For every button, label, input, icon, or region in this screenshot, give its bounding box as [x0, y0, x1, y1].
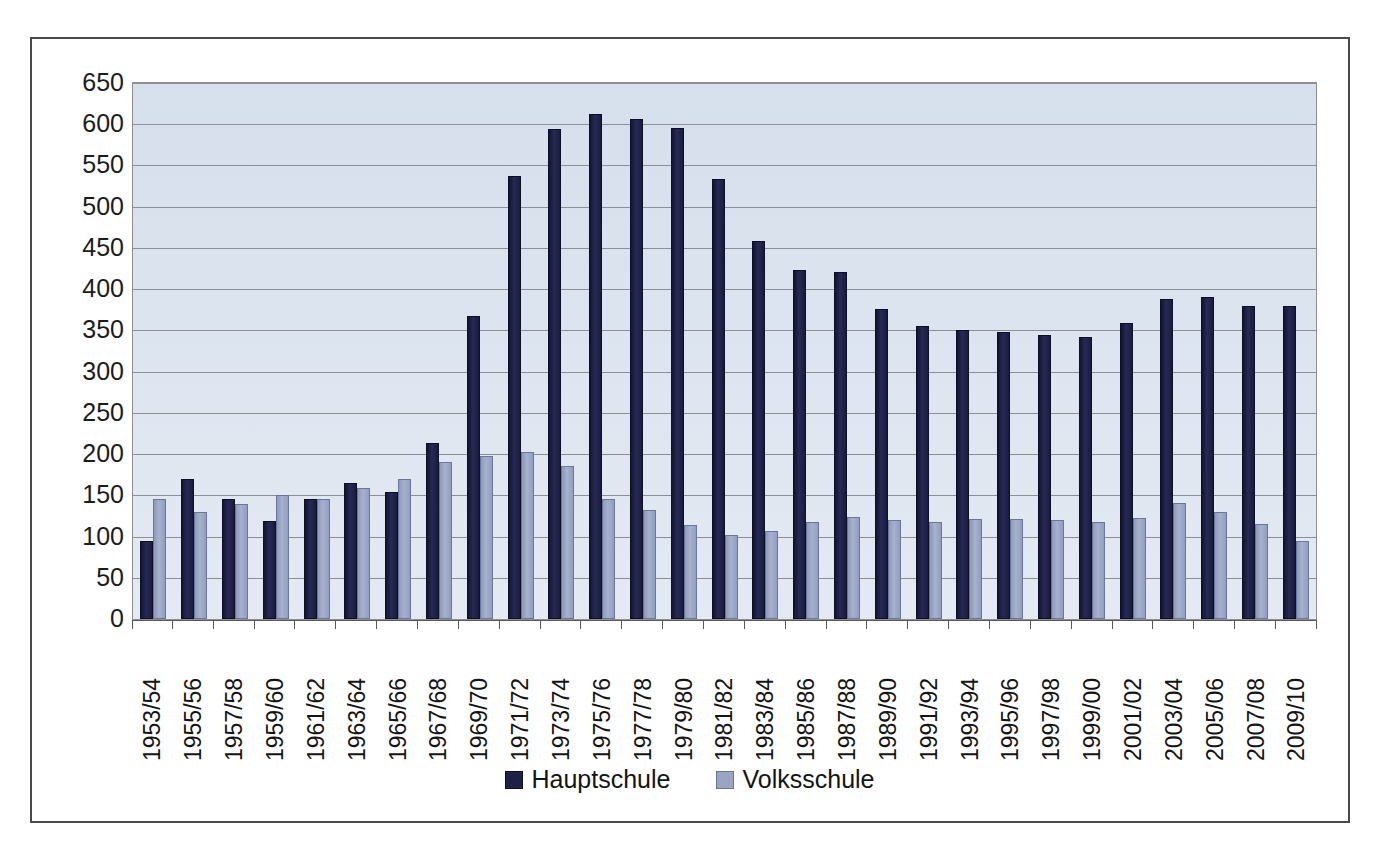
- bar-volksschule-1985-86: [806, 522, 819, 619]
- bar-hauptschule-1963-64: [344, 483, 357, 619]
- x-tick-label-cell: 1973/74: [541, 631, 582, 761]
- bar-hauptschule-1975-76: [589, 114, 602, 619]
- x-tick-label: 1961/62: [304, 678, 327, 761]
- bar-volksschule-1999-00: [1092, 522, 1105, 619]
- y-tick-label: 350: [82, 317, 124, 342]
- bar-hauptschule-2005-06: [1201, 297, 1214, 619]
- bar-hauptschule-1983-84: [752, 241, 765, 619]
- y-tick-label: 550: [82, 152, 124, 177]
- x-tick-label: 1991/92: [917, 678, 940, 761]
- bar-group: [1071, 83, 1112, 619]
- x-tick-label: 1957/58: [223, 678, 246, 761]
- legend-entry-hauptschule[interactable]: Hauptschule: [505, 767, 670, 792]
- bar-group: [827, 83, 868, 619]
- legend-entry-volksschule[interactable]: Volksschule: [716, 767, 874, 792]
- x-tick: [1072, 620, 1113, 629]
- x-tick-label: 1977/78: [631, 678, 654, 761]
- bar-group: [663, 83, 704, 619]
- x-tick-label: 1997/98: [1040, 678, 1063, 761]
- bar-volksschule-2003-04: [1173, 503, 1186, 619]
- x-tick-label-cell: 1967/68: [418, 631, 459, 761]
- bar-volksschule-1969-70: [480, 456, 493, 619]
- bar-volksschule-1963-64: [357, 488, 370, 619]
- bars-layer: [133, 83, 1316, 619]
- bar-hauptschule-1977-78: [630, 119, 643, 619]
- bar-volksschule-2001-02: [1133, 518, 1146, 619]
- bar-group: [174, 83, 215, 619]
- x-tick-label: 1967/68: [427, 678, 450, 761]
- bar-group: [623, 83, 664, 619]
- y-tick-label: 500: [82, 193, 124, 218]
- x-tick: [336, 620, 377, 629]
- x-tick-label: 1971/72: [509, 678, 532, 761]
- bar-hauptschule-1989-90: [875, 309, 888, 619]
- x-tick: [255, 620, 296, 629]
- bar-hauptschule-2007-08: [1242, 306, 1255, 619]
- bar-volksschule-1995-96: [1010, 519, 1023, 619]
- bar-volksschule-1977-78: [643, 510, 656, 619]
- bar-hauptschule-1971-72: [508, 176, 521, 619]
- x-tick: [173, 620, 214, 629]
- x-tick-label: 1959/60: [264, 678, 287, 761]
- y-tick-label: 150: [82, 482, 124, 507]
- x-tick-label: 1963/64: [345, 678, 368, 761]
- legend-swatch-icon: [716, 771, 734, 789]
- bar-hauptschule-1981-82: [712, 179, 725, 619]
- bar-group: [949, 83, 990, 619]
- x-tick-label: 1989/90: [876, 678, 899, 761]
- x-tick: [786, 620, 827, 629]
- x-tick-label-cell: 1995/96: [990, 631, 1031, 761]
- bar-volksschule-1993-94: [969, 519, 982, 619]
- plot-area: [132, 82, 1317, 620]
- bar-group: [908, 83, 949, 619]
- bar-volksschule-1955-56: [194, 512, 207, 619]
- bar-group: [459, 83, 500, 619]
- x-tick: [377, 620, 418, 629]
- bar-hauptschule-1957-58: [222, 499, 235, 619]
- x-tick-label-cell: 2005/06: [1194, 631, 1235, 761]
- x-tick: [990, 620, 1031, 629]
- x-tick: [908, 620, 949, 629]
- x-tick-label-cell: 1969/70: [459, 631, 500, 761]
- x-tick-label: 1981/82: [713, 678, 736, 761]
- bar-group: [745, 83, 786, 619]
- bar-hauptschule-1961-62: [304, 499, 317, 619]
- x-tick-label-cell: 1975/76: [581, 631, 622, 761]
- x-tick: [663, 620, 704, 629]
- x-tick-label-cell: 1999/00: [1072, 631, 1113, 761]
- bar-group: [1112, 83, 1153, 619]
- x-tick: [500, 620, 541, 629]
- bar-group: [1194, 83, 1235, 619]
- bar-volksschule-1965-66: [398, 479, 411, 619]
- bar-volksschule-1983-84: [765, 531, 778, 619]
- x-tick-label-cell: 1989/90: [867, 631, 908, 761]
- bar-volksschule-1979-80: [684, 525, 697, 619]
- x-tick: [295, 620, 336, 629]
- bar-hauptschule-1993-94: [956, 330, 969, 619]
- bar-group: [704, 83, 745, 619]
- bar-hauptschule-1987-88: [834, 272, 847, 619]
- x-tick: [581, 620, 622, 629]
- bar-hauptschule-2001-02: [1120, 323, 1133, 619]
- x-axis-labels: 1953/541955/561957/581959/601961/621963/…: [132, 631, 1317, 761]
- bar-volksschule-1971-72: [521, 452, 534, 619]
- x-tick: [827, 620, 868, 629]
- bar-group: [1235, 83, 1276, 619]
- bar-hauptschule-1969-70: [467, 316, 480, 619]
- y-tick-label: 200: [82, 441, 124, 466]
- x-tick-label: 1993/94: [958, 678, 981, 761]
- x-tick: [459, 620, 500, 629]
- x-axis-ticks: [132, 620, 1317, 629]
- bar-hauptschule-1995-96: [997, 332, 1010, 619]
- x-tick-label-cell: 1971/72: [500, 631, 541, 761]
- x-tick-label-cell: 1961/62: [295, 631, 336, 761]
- bar-group: [1153, 83, 1194, 619]
- y-tick-label: 50: [96, 564, 124, 589]
- x-tick-label-cell: 1977/78: [622, 631, 663, 761]
- y-tick-label: 100: [82, 523, 124, 548]
- x-tick: [132, 620, 173, 629]
- y-tick-label: 650: [82, 70, 124, 95]
- bar-group: [337, 83, 378, 619]
- x-tick-label: 1969/70: [468, 678, 491, 761]
- x-tick-label-cell: 1983/84: [745, 631, 786, 761]
